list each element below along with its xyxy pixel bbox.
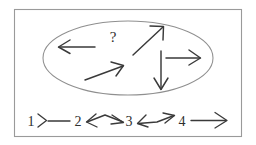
question-mark-glyph: ? xyxy=(110,29,117,45)
sequence-label-1: 1 xyxy=(28,114,35,129)
sequence-label-3: 3 xyxy=(126,114,133,129)
diagram-canvas: ? 1 xyxy=(0,0,256,145)
diagram-svg: ? 1 xyxy=(0,0,256,145)
sequence-label-2: 2 xyxy=(75,114,82,129)
sequence-label-4: 4 xyxy=(179,114,186,129)
